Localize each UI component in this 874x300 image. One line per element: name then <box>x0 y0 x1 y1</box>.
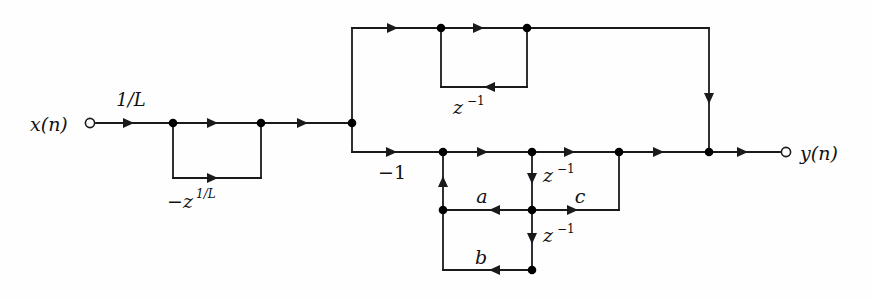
node-lower-rail-a <box>439 148 448 157</box>
node-feedback-left <box>439 206 448 215</box>
node-split <box>348 119 357 128</box>
node-upper-loop-out <box>523 24 532 33</box>
coefficient-b-label: b <box>475 246 487 268</box>
delay-mid-exponent: −1 <box>557 162 575 176</box>
upper-delay-label: z −1 <box>452 94 485 118</box>
node-left-loop-out <box>257 119 266 128</box>
wire-layer <box>96 28 780 270</box>
flow-graph-canvas: x(n) y(n) 1/L −z 1/L z −1 −1 a b c z −1 <box>0 0 874 300</box>
arrow-output-lead <box>737 147 748 157</box>
input-terminal-circle <box>85 118 94 127</box>
feedforward-gain-label: −1 <box>378 161 406 183</box>
arrow-lower-rail-2 <box>477 147 488 157</box>
arrow-delay-mid-down <box>527 173 537 184</box>
arrow-lower-rail-4 <box>653 147 664 157</box>
delay-lower-base: z <box>542 224 554 246</box>
left-loop-coefficient-label: −z 1/L <box>167 187 216 212</box>
upper-delay-exponent: −1 <box>467 94 485 108</box>
arrow-feedback-up <box>438 176 448 187</box>
node-bottom-tap <box>528 266 537 275</box>
arrow-delay-lower-down <box>527 233 537 244</box>
arrow-left-loop-top <box>207 118 218 128</box>
node-upper-loop-in <box>437 24 446 33</box>
output-terminal-circle <box>781 147 790 156</box>
node-lower-rail-c <box>615 148 624 157</box>
input-signal-label: x(n) <box>30 113 68 135</box>
delay-mid-base: z <box>542 164 554 186</box>
delay-mid-label: z −1 <box>542 162 575 186</box>
node-mid-tap <box>528 206 537 215</box>
arrow-input-gain <box>123 118 134 128</box>
arrow-top-rail-2 <box>473 23 484 33</box>
left-loop-coefficient-base: −z <box>167 190 194 212</box>
left-loop-coefficient-exponent: 1/L <box>196 187 216 201</box>
arrow-coefficient-b <box>489 265 500 275</box>
delay-lower-label: z −1 <box>542 222 575 246</box>
node-left-loop-in <box>169 119 178 128</box>
input-gain-label: 1/L <box>116 89 145 110</box>
coefficient-c-label: c <box>575 185 586 207</box>
node-join <box>705 148 714 157</box>
arrow-left-to-split <box>297 118 308 128</box>
signal-flow-graph-figure: x(n) y(n) 1/L −z 1/L z −1 −1 a b c z −1 <box>0 0 874 300</box>
delay-lower-exponent: −1 <box>557 222 575 236</box>
arrow-upper-loop-bottom <box>484 82 495 92</box>
arrowhead-layer <box>123 23 748 275</box>
arrow-left-loop-bottom <box>207 173 218 183</box>
coefficient-a-label: a <box>476 185 487 207</box>
arrow-top-rail-1 <box>387 23 398 33</box>
arrow-lower-rail-3 <box>564 147 575 157</box>
arrow-coefficient-a <box>489 205 500 215</box>
arrow-lower-rail-1 <box>386 147 397 157</box>
arrow-top-rail-down <box>704 93 714 104</box>
output-signal-label: y(n) <box>799 142 838 164</box>
node-lower-rail-b <box>528 148 537 157</box>
upper-delay-base: z <box>452 96 464 118</box>
